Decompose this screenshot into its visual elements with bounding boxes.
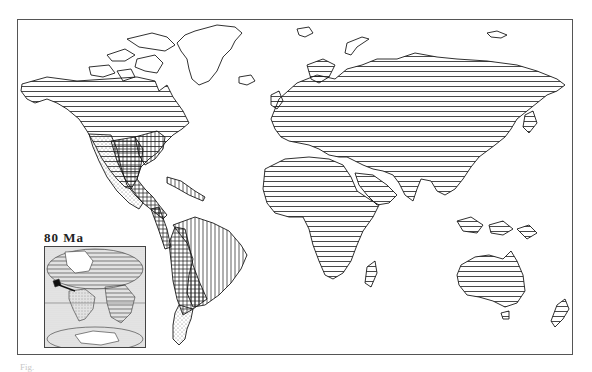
svalbard: [297, 27, 313, 37]
inset-map-80ma: [44, 246, 146, 348]
siberian-islands: [487, 31, 507, 38]
inset-age-label: 80 Ma: [44, 230, 84, 246]
australia: [457, 251, 525, 307]
cuba-caribbean: [167, 177, 205, 201]
madagascar: [365, 261, 377, 287]
indonesia: [457, 217, 537, 239]
patagonia: [173, 305, 193, 345]
iceland: [239, 75, 255, 85]
new-zealand: [551, 299, 569, 327]
novaya-zemlya: [345, 37, 369, 55]
tasmania: [501, 311, 509, 319]
lesser-antilles: [151, 207, 171, 249]
figure-caption: Fig.: [20, 362, 34, 372]
japan: [523, 111, 537, 133]
canadian-arctic-islands: [89, 33, 175, 81]
inset-paleomap: [45, 247, 145, 347]
greenland: [177, 25, 242, 85]
